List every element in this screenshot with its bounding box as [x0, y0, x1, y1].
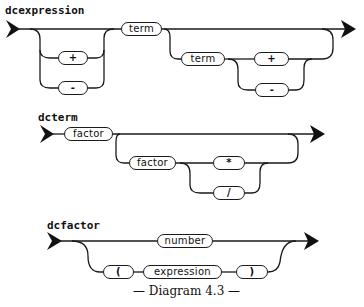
- rule-title-dcfactor: dcfactor: [47, 219, 100, 232]
- node-term: term: [121, 22, 162, 36]
- syntax-diagram: dcexpression + - term term + - dcterm fa…: [0, 0, 364, 307]
- node-expression: expression: [143, 265, 222, 279]
- node-number: number: [157, 234, 213, 248]
- node-plus-operator: +: [254, 52, 289, 66]
- node-term-repeat: term: [181, 52, 225, 66]
- node-multiply-operator: *: [213, 156, 245, 170]
- diagram-caption: — Diagram 4.3 —: [133, 284, 240, 298]
- node-factor: factor: [64, 127, 113, 141]
- node-left-paren: (: [103, 265, 134, 279]
- node-divide-operator: /: [213, 186, 245, 200]
- node-factor-repeat: factor: [129, 156, 176, 170]
- node-plus-sign: +: [58, 51, 88, 65]
- rule-title-dcexpression: dcexpression: [5, 4, 84, 17]
- rule-title-dcterm: dcterm: [38, 111, 78, 124]
- railroad-lines: [0, 0, 364, 307]
- node-right-paren: ): [236, 265, 268, 279]
- node-minus-operator: -: [255, 83, 289, 97]
- node-minus-sign: -: [58, 81, 88, 95]
